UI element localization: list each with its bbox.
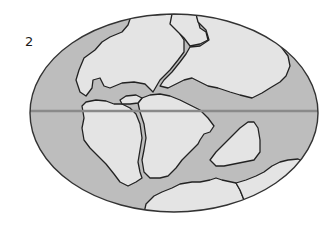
globe-map [0, 0, 333, 236]
